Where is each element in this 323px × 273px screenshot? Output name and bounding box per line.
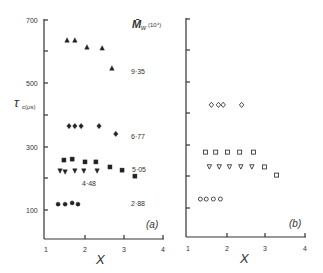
data-point — [214, 150, 218, 154]
data-point — [97, 123, 101, 128]
data-point — [203, 150, 207, 154]
data-point — [63, 202, 67, 206]
xtick-2: 2 — [83, 246, 87, 253]
data-point — [207, 165, 211, 169]
x-axis-label-a: X — [95, 252, 106, 267]
data-point — [108, 165, 112, 169]
ytick-700: 700 — [26, 17, 38, 24]
panel-label-a: (a) — [146, 219, 158, 230]
figure: 700 500 300 100 1 2 3 4 X τ c(μs) M̄ w (… — [0, 0, 323, 273]
data-point — [251, 150, 255, 154]
data-point — [221, 102, 225, 107]
data-point — [73, 38, 77, 42]
series-label-288: 2·88 — [131, 200, 145, 207]
xtick-b-1: 1 — [186, 245, 190, 252]
data-point — [262, 165, 266, 169]
data-point — [95, 169, 99, 173]
legend-title-unit: (10⁴) — [148, 22, 161, 28]
xtick-b-3: 3 — [263, 245, 267, 252]
data-point — [67, 123, 71, 128]
data-point — [198, 197, 202, 201]
data-point — [94, 160, 98, 164]
ytick-300: 300 — [26, 144, 38, 151]
xtick-3: 3 — [122, 246, 126, 253]
data-point — [250, 165, 254, 169]
data-point — [120, 168, 124, 172]
data-point — [65, 38, 69, 42]
xtick-1: 1 — [44, 246, 48, 253]
data-point — [70, 201, 74, 205]
data-point — [216, 102, 220, 107]
data-point — [82, 169, 86, 173]
data-point — [73, 123, 77, 128]
series-label-935: 9·35 — [131, 68, 145, 75]
data-point — [209, 102, 213, 107]
series-label-505: 5·05 — [132, 166, 146, 173]
legend-title-sub: w — [141, 24, 147, 31]
data-point — [239, 102, 243, 107]
data-point — [85, 45, 89, 49]
panel-label-b: (b) — [289, 218, 301, 229]
panel-a-markers — [56, 38, 137, 206]
data-point — [275, 173, 279, 177]
data-point — [204, 197, 208, 201]
data-point — [76, 202, 80, 206]
data-point — [218, 197, 222, 201]
series-labels: 9·35 6·77 5·05 4·48 2·88 — [82, 68, 146, 207]
series-label-677: 6·77 — [131, 133, 145, 140]
data-point — [225, 150, 229, 154]
data-point — [100, 46, 104, 50]
data-point — [239, 165, 243, 169]
data-point — [238, 150, 242, 154]
xtick-4: 4 — [161, 246, 165, 253]
panel-b-markers — [198, 102, 278, 201]
data-point — [133, 174, 137, 178]
xtick-b-2: 2 — [225, 245, 229, 252]
data-point — [114, 131, 118, 136]
panel-b-axes — [186, 18, 306, 237]
series-label-448: 4·48 — [82, 180, 96, 187]
data-point — [58, 169, 62, 173]
data-point — [110, 66, 114, 70]
panel-a-ytick-labels: 700 500 300 100 — [26, 17, 38, 214]
data-point — [79, 123, 83, 128]
x-axis-label-b: X — [239, 251, 250, 266]
data-point — [227, 165, 231, 169]
ytick-100: 100 — [26, 207, 38, 214]
data-point — [63, 170, 67, 174]
xtick-b-4: 4 — [303, 245, 307, 252]
data-point — [56, 202, 60, 206]
y-axis-label-sub: c(μs) — [22, 104, 35, 110]
data-point — [217, 165, 221, 169]
data-point — [62, 158, 66, 162]
y-axis-label: τ — [14, 95, 20, 110]
data-point — [73, 169, 77, 173]
data-point — [83, 160, 87, 164]
data-point — [70, 157, 74, 161]
data-point — [211, 197, 215, 201]
ytick-500: 500 — [26, 80, 38, 87]
panel-a-axes — [44, 19, 164, 239]
